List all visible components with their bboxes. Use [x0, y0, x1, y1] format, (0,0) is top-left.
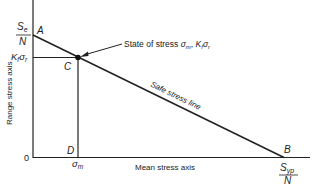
point-d-label: D — [67, 145, 74, 156]
syp-over-n-label: Syp N — [279, 162, 298, 185]
annotation-leader — [84, 44, 122, 55]
y-axis-label: Range stress axis — [5, 61, 14, 125]
point-b-label: B — [284, 144, 291, 155]
sigma-m-label: σm — [72, 158, 84, 170]
diagram-canvas: State of stress σm, Kfσr A C D B Se N Kf… — [0, 0, 312, 185]
svg-text:Se: Se — [17, 21, 28, 33]
safe-stress-line — [33, 35, 284, 158]
point-c-label: C — [64, 61, 72, 72]
kf-sigma-r-label: Kfσr — [11, 51, 28, 63]
svg-text:Syp: Syp — [280, 162, 294, 175]
svg-text:N: N — [284, 175, 292, 185]
point-a-label: A — [36, 25, 44, 36]
origin-label: 0 — [24, 153, 29, 163]
se-over-n-label: Se N — [16, 21, 31, 47]
point-c-marker — [75, 55, 81, 61]
state-of-stress-annotation: State of stress σm, Kfσr — [124, 39, 211, 50]
arrow-head-icon — [80, 52, 89, 58]
safe-stress-diagram: State of stress σm, Kfσr A C D B Se N Kf… — [0, 0, 312, 185]
x-axis-label: Mean stress axis — [135, 163, 195, 172]
svg-text:N: N — [19, 36, 27, 47]
